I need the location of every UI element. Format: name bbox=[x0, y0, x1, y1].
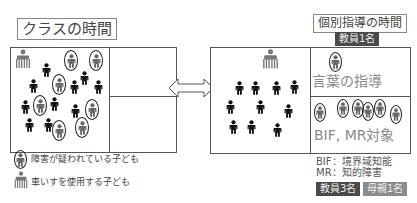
child-icon bbox=[25, 118, 34, 132]
mother-badge: 母親1名 bbox=[363, 182, 407, 196]
empty-panel-bottom bbox=[109, 96, 177, 153]
class-time-title: クラスの時間 bbox=[17, 18, 117, 40]
child-icon bbox=[29, 79, 38, 93]
legend-label-wheelchair: 車いすを使用する子ども bbox=[31, 177, 130, 188]
child-icon bbox=[226, 100, 235, 114]
child-icon bbox=[235, 81, 244, 95]
child-icon bbox=[229, 120, 238, 134]
teachers-badge: 教員3名 bbox=[316, 182, 360, 196]
child-icon bbox=[247, 120, 256, 134]
child-icon bbox=[256, 100, 265, 114]
child-icon bbox=[94, 80, 103, 94]
empty-panel-top bbox=[109, 47, 177, 97]
definition-bif: BIF：境界域知能 bbox=[316, 156, 392, 167]
legend-wheelchair-child-icon bbox=[12, 171, 30, 189]
child-icon bbox=[290, 80, 299, 94]
child-icon bbox=[21, 100, 30, 114]
wheelchair-child-icon bbox=[260, 48, 281, 70]
child-icon bbox=[272, 81, 281, 95]
wheelchair-child-icon bbox=[13, 49, 33, 69]
child-icon bbox=[251, 81, 260, 95]
teacher-badge-top: 教員1名 bbox=[335, 32, 379, 46]
definition-mr: MR：知的障害 bbox=[316, 167, 382, 178]
double-arrow-icon bbox=[168, 77, 214, 99]
language-guidance-label: 言葉の指導 bbox=[312, 73, 382, 90]
legend-label-suspected: 障害が疑われている子ども bbox=[31, 154, 139, 165]
bif-mr-label: BIF, MR対象 bbox=[314, 127, 395, 144]
child-icon bbox=[284, 104, 293, 118]
child-icon bbox=[42, 63, 51, 77]
child-icon bbox=[50, 97, 59, 111]
child-icon bbox=[80, 71, 89, 85]
child-icon bbox=[273, 123, 282, 137]
individual-time-title: 個別指導の時間 bbox=[313, 14, 407, 33]
child-icon bbox=[71, 104, 80, 118]
child-icon bbox=[70, 80, 79, 94]
